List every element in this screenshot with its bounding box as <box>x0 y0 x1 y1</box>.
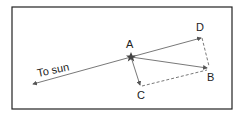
label-sun: To sun <box>36 60 70 78</box>
vector-diagram: A D B C To sun <box>0 0 241 121</box>
label-a: A <box>126 38 134 50</box>
arrow-ad <box>131 38 201 57</box>
label-d: D <box>196 21 204 33</box>
label-b: B <box>207 71 214 83</box>
star-icon <box>126 52 136 62</box>
dashed-db <box>202 38 209 66</box>
dashed-cb <box>142 70 207 86</box>
arrow-ab <box>131 57 207 68</box>
arrow-ac <box>131 57 140 85</box>
label-c: C <box>137 89 145 101</box>
